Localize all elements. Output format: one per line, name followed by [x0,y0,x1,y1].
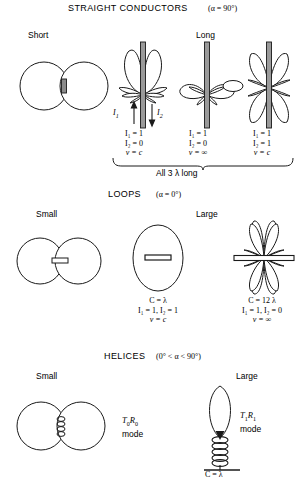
long-conductor-side-lobe [222,78,244,94]
case-3-i1: I₁ = 1 [236,129,288,139]
angle-note-helices: (0° < α < 90°) [156,352,201,361]
case-1-parameters: I₁ = 1 I₂ = 0 v = c [108,129,160,158]
label-small-helix: Small [36,371,57,381]
bracket-label-all-three: All 3 λ long [156,168,198,178]
loop-case-1-i: I₁ = 1, I₂ = 1 [128,306,188,316]
case-2-i1: I₁ = 1 [172,129,224,139]
short-dipole-pattern [18,55,110,117]
loop-case-2-c: C = 12 λ [226,296,298,306]
case-2-i2: I₂ = 0 [172,139,224,149]
loop-case-1-v: v = c [128,315,188,325]
section-title-helices: HELICES [104,351,145,361]
mode-label-t1r1: T1R1 mode [240,410,261,434]
loop-case-2-i: I₁ = 1, I₂ = 0 [226,306,298,316]
small-loop-pattern [14,232,106,290]
loop-case-2-parameters: C = 12 λ I₁ = 1, I₂ = 0 v = ∞ [226,296,298,325]
mode-name-t1r1: T1R1 [240,410,256,420]
loop-case-1-parameters: C = λ I₁ = 1, I₂ = 1 v = c [128,296,188,325]
mode-word-t0r0: mode [122,429,143,439]
angle-note-straight-conductors: (α = 90°) [208,4,237,13]
case-1-i2: I₂ = 0 [108,139,160,149]
long-conductor-pattern-case-1 [112,40,174,130]
section-title-straight-conductors: STRAIGHT CONDUCTORS [68,3,188,13]
mode-label-t0r0: T0R0 mode [122,415,143,439]
case-3-v: v = c [236,148,288,158]
label-large-loop: Large [196,209,218,219]
loop-pattern-c-lambda [127,222,189,294]
label-small-loop: Small [36,209,57,219]
current-label-i2: I2 [157,108,163,119]
case-3-parameters: I₁ = 1 I₂ = 1 v = c [236,129,288,158]
label-large-helix: Large [236,371,258,381]
small-helix-pattern [14,396,110,456]
label-short-conductor: Short [28,30,48,40]
angle-note-loops: (α = 0°) [156,190,181,199]
bracket-all-three [112,158,294,170]
case-3-i2: I₂ = 1 [236,139,288,149]
section-title-loops: LOOPS [108,189,141,199]
mode-name-t0r0: T0R0 [122,415,138,425]
loop-case-1-c: C = λ [128,296,188,306]
helix-circumference-label: C = λ [205,470,223,479]
long-conductor-pattern-case-3 [238,40,300,130]
case-1-v: v = c [108,148,160,158]
antenna-radiation-pattern-figure: STRAIGHT CONDUCTORS (α = 90°) Short Long… [0,0,308,483]
label-long-conductor: Long [196,30,215,40]
current-label-i1: I1 [113,108,119,119]
case-2-v: v = ∞ [172,148,224,158]
case-2-parameters: I₁ = 1 I₂ = 0 v = ∞ [172,129,224,158]
loop-pattern-c-12-lambda [228,218,300,296]
loop-case-2-v: v = ∞ [226,315,298,325]
case-1-i1: I₁ = 1 [108,129,160,139]
mode-word-t1r1: mode [240,424,261,434]
